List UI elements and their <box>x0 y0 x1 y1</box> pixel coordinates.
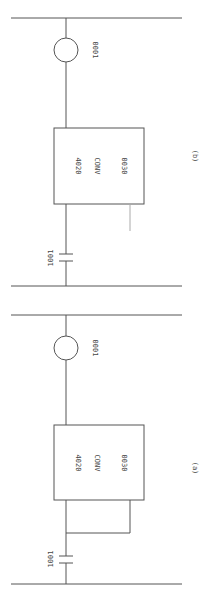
coil-label: 0001 <box>91 340 99 357</box>
caption: (b) <box>191 150 199 163</box>
caption: (a) <box>191 462 199 475</box>
block-line3: 0030 <box>120 158 128 175</box>
block-line3: 0030 <box>120 455 128 472</box>
contact-label: 1001 <box>47 250 55 267</box>
coil-label: 0001 <box>91 42 99 59</box>
block-line2: CONV <box>93 455 101 473</box>
diagram-a: 0001 4020 CONV 0030 1001 (a) <box>11 315 199 584</box>
ladder-diagrams: 0001 4020 CONV 0030 1001 (b) 0001 4020 C… <box>0 0 200 609</box>
block-line2: CONV <box>93 158 101 176</box>
block-line1: 4020 <box>74 158 82 175</box>
coil-icon <box>54 336 78 360</box>
diagram-b: 0001 4020 CONV 0030 1001 (b) <box>11 18 199 286</box>
coil-icon <box>54 38 78 62</box>
contact-label: 1001 <box>47 551 55 568</box>
block-line1: 4020 <box>74 455 82 472</box>
